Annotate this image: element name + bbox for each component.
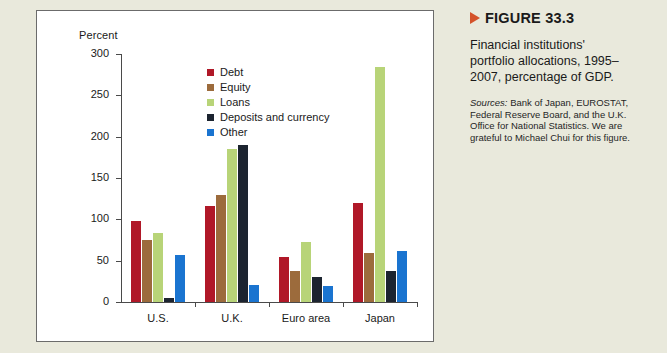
y-axis-tick-label: 250 [91,88,109,100]
bar [153,233,163,302]
bar [227,149,237,302]
y-axis-tick-label: 200 [91,130,109,142]
x-axis-category-label: U.S. [147,312,168,324]
figure-heading: FIGURE 33.3 [470,10,630,26]
figure-panel: Percent 050100150200250300U.S.U.K.Euro a… [36,10,434,342]
y-axis-title: Percent [79,29,118,41]
legend-label: Equity [220,81,251,93]
y-axis-tick: 50 [116,261,121,262]
x-axis-category-label: U.K. [221,312,242,324]
bar [364,253,374,302]
bar [353,203,363,302]
x-axis-category-label: Japan [365,312,395,324]
legend-label: Debt [220,66,243,78]
y-axis-line [121,54,122,303]
y-axis-tick: 200 [116,137,121,138]
legend-swatch-icon [207,129,214,136]
figure-sources: Sources: Bank of Japan, EUROSTAT, Federa… [470,97,630,143]
y-axis-tick: 300 [116,54,121,55]
legend-item: Debt [207,66,329,78]
sources-label: Sources: [470,97,508,108]
bar [279,257,289,302]
bar [301,242,311,302]
bar [312,277,322,302]
y-axis-tick-label: 300 [91,47,109,59]
bar [323,286,333,302]
bar [164,298,174,302]
legend-swatch-icon [207,69,214,76]
bar [249,285,259,302]
legend-item: Deposits and currency [207,111,329,123]
y-axis-tick: 250 [116,95,121,96]
y-axis-tick-label: 0 [103,295,109,307]
caption-column: FIGURE 33.3 Financial institutions' port… [470,10,630,143]
bar [290,271,300,302]
legend-label: Loans [220,96,250,108]
bar [386,271,396,302]
bar [397,251,407,302]
y-axis-tick-label: 100 [91,212,109,224]
legend-swatch-icon [207,84,214,91]
y-axis-tick-label: 150 [91,171,109,183]
legend-swatch-icon [207,114,214,121]
y-axis-tick: 0 [116,302,121,303]
legend-label: Deposits and currency [220,111,329,123]
bar [175,255,185,302]
bar [216,195,226,302]
y-axis-tick: 100 [116,219,121,220]
y-axis-tick-label: 50 [97,254,109,266]
x-axis-tick [269,302,270,307]
x-axis-tick [343,302,344,307]
x-axis-category-label: Euro area [282,312,330,324]
bar [205,206,215,302]
bar [375,67,385,302]
y-axis-tick: 150 [116,178,121,179]
legend-item: Other [207,126,329,138]
bar [238,145,248,302]
x-axis-tick [417,302,418,307]
x-axis-tick [195,302,196,307]
legend-swatch-icon [207,99,214,106]
figure-caption: Financial institutions' portfolio alloca… [470,37,630,85]
bar [131,221,141,302]
legend-item: Equity [207,81,329,93]
legend-label: Other [220,126,248,138]
bar [142,240,152,302]
chart-legend: DebtEquityLoansDeposits and currencyOthe… [207,66,329,138]
legend-item: Loans [207,96,329,108]
bar-chart: Percent 050100150200250300U.S.U.K.Euro a… [37,11,433,341]
figure-number: FIGURE 33.3 [485,10,574,26]
triangle-marker-icon [470,12,480,24]
